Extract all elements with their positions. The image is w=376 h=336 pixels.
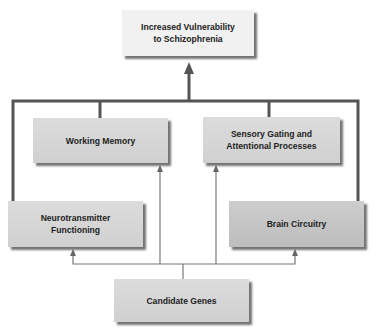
node-label-line1: Neurotransmitter xyxy=(41,212,111,224)
arrowhead-up-icon xyxy=(184,62,194,74)
node-label-line1: Increased Vulnerability xyxy=(141,21,235,33)
arrowhead-up-icon xyxy=(157,165,163,172)
arrowhead-up-icon xyxy=(292,249,298,256)
node-sensory-gating: Sensory Gating and Attentional Processes xyxy=(203,117,340,163)
node-label-line2: to Schizophrenia xyxy=(141,33,235,45)
node-outcome: Increased Vulnerability to Schizophrenia xyxy=(122,10,254,56)
node-working-memory: Working Memory xyxy=(33,118,168,163)
node-candidate-genes: Candidate Genes xyxy=(114,279,249,322)
node-label: Candidate Genes xyxy=(146,295,216,307)
arrowhead-up-icon xyxy=(213,165,219,172)
node-label-line2: Functioning xyxy=(41,224,111,236)
node-label-line2: Attentional Processes xyxy=(226,140,316,152)
node-brain-circuitry: Brain Circuitry xyxy=(229,201,364,247)
node-neurotransmitter: Neurotransmitter Functioning xyxy=(8,201,143,247)
node-label: Brain Circuitry xyxy=(267,218,327,230)
arrowhead-up-icon xyxy=(70,249,76,256)
node-label-line1: Sensory Gating and xyxy=(226,128,316,140)
node-label: Working Memory xyxy=(66,135,136,147)
